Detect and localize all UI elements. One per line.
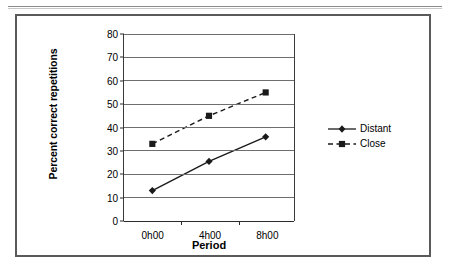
- gridline: [124, 80, 294, 81]
- series-line-distant: [152, 137, 265, 191]
- series-line-close: [152, 92, 265, 143]
- y-tick-mark: [120, 174, 124, 175]
- gridline: [124, 221, 294, 222]
- data-point-distant: [262, 133, 269, 140]
- y-tick-label: 10: [107, 192, 118, 203]
- y-tick-label: 80: [107, 29, 118, 40]
- legend-item-distant: Distant: [327, 121, 427, 136]
- chart-legend: Distant Close: [327, 121, 427, 151]
- data-point-close: [149, 141, 155, 147]
- y-axis-title: Percent correct repetitions: [47, 34, 59, 194]
- legend-symbol-close: [327, 138, 357, 150]
- y-tick-label: 30: [107, 145, 118, 156]
- legend-label-distant: Distant: [360, 123, 391, 134]
- x-tick-mark: [239, 221, 240, 225]
- data-point-distant: [149, 187, 156, 194]
- scan-rule-top: [8, 6, 442, 7]
- y-tick-label: 40: [107, 122, 118, 133]
- chart-container: Percent correct repetitions 010203040506…: [17, 16, 429, 255]
- y-tick-mark: [120, 197, 124, 198]
- gridline: [124, 197, 294, 198]
- y-tick-label: 50: [107, 99, 118, 110]
- y-tick-mark: [120, 150, 124, 151]
- scan-rule-top-secondary: [8, 8, 442, 9]
- y-tick-mark: [120, 104, 124, 105]
- gridline: [124, 174, 294, 175]
- data-point-close: [263, 89, 269, 95]
- legend-item-close: Close: [327, 136, 427, 151]
- plot-area: 010203040506070800h004h008h00: [123, 34, 295, 221]
- y-tick-mark: [120, 221, 124, 222]
- gridline: [124, 127, 294, 128]
- y-tick-mark: [120, 80, 124, 81]
- x-axis-title: Period: [123, 239, 295, 251]
- y-tick-mark: [120, 34, 124, 35]
- gridline: [124, 104, 294, 105]
- legend-symbol-distant: [327, 123, 357, 135]
- x-tick-mark: [181, 221, 182, 225]
- y-tick-mark: [120, 57, 124, 58]
- legend-label-close: Close: [360, 138, 386, 149]
- y-tick-mark: [120, 127, 124, 128]
- data-point-distant: [205, 158, 212, 165]
- y-tick-label: 20: [107, 169, 118, 180]
- y-tick-label: 60: [107, 75, 118, 86]
- y-tick-label: 70: [107, 52, 118, 63]
- gridline: [124, 57, 294, 58]
- chart-frame: Percent correct repetitions 010203040506…: [15, 14, 431, 257]
- gridline: [124, 34, 294, 35]
- data-point-close: [206, 113, 212, 119]
- gridline: [124, 150, 294, 151]
- y-tick-label: 0: [112, 216, 118, 227]
